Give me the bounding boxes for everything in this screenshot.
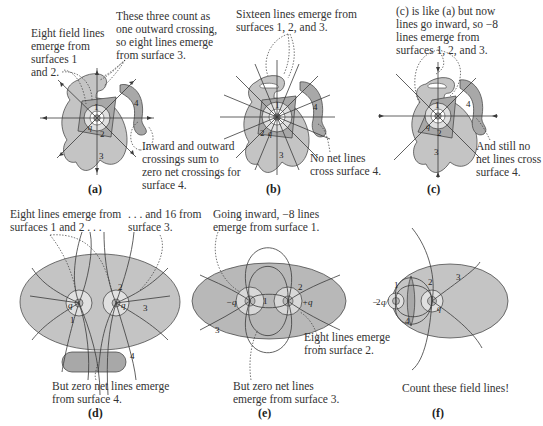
svg-text:1: 1 [275, 100, 280, 110]
panel-e-diagram: −q +q 1 2 3 [192, 232, 346, 380]
svg-text:3: 3 [143, 303, 148, 313]
svg-text:3: 3 [215, 325, 220, 335]
svg-text:−q: −q [226, 297, 237, 307]
svg-text:2: 2 [437, 128, 442, 138]
svg-text:2: 2 [376, 297, 381, 307]
svg-text:q: q [437, 304, 441, 313]
annotation-d-3: But zero net lines emerge from surface 4… [52, 380, 169, 406]
annotation-f-1: Count these field lines! [402, 382, 509, 395]
annotation-a-1: Eight field lines emerge from surfaces 1… [31, 27, 104, 79]
svg-text:1: 1 [94, 102, 99, 112]
svg-text:4: 4 [134, 98, 139, 108]
svg-text:3: 3 [279, 150, 284, 160]
panel-f-diagram: q/ − 2 1 2 3 4 q [372, 228, 508, 370]
svg-text:1: 1 [263, 296, 268, 306]
svg-text:q: q [426, 122, 430, 131]
svg-text:2: 2 [118, 282, 123, 292]
panel-d-diagram: q q 1 2 3 4 [20, 232, 180, 395]
svg-text:q: q [121, 300, 126, 310]
panel-label-a: (a) [88, 182, 102, 197]
svg-text:3: 3 [434, 147, 439, 157]
svg-text:2: 2 [100, 129, 105, 139]
svg-text:4: 4 [130, 351, 135, 361]
annotation-b-1: Sixteen lines emerge from surfaces 1, 2,… [236, 8, 357, 34]
annotation-a-3: Inward and outward crossings sum to zero… [142, 140, 241, 192]
svg-text:1: 1 [394, 280, 399, 290]
svg-text:2: 2 [298, 282, 303, 292]
svg-text:q: q [88, 123, 92, 132]
svg-text:4: 4 [405, 316, 410, 326]
svg-text:3: 3 [99, 151, 104, 161]
annotation-b-2: No net lines cross surface 4. [310, 152, 381, 178]
svg-text:4: 4 [466, 99, 471, 109]
panel-label-e: (e) [258, 406, 271, 421]
svg-text:2: 2 [260, 128, 265, 138]
svg-text:1: 1 [70, 315, 75, 325]
svg-text:+q: +q [302, 297, 313, 307]
svg-text:3: 3 [456, 272, 461, 282]
svg-text:1: 1 [435, 100, 440, 110]
annotation-e-3: But zero net lines emerge from surface 3… [233, 380, 339, 406]
surface-4-bar [62, 352, 126, 372]
annotation-a-2: These three count as one outward crossin… [116, 10, 217, 62]
annotation-c-1: (c) is like (a) but now lines go inward,… [396, 5, 498, 57]
panel-label-c: (c) [427, 182, 440, 197]
panel-label-f: (f) [432, 406, 444, 421]
panel-label-d: (d) [88, 406, 103, 421]
surface-3-ellipse [20, 254, 180, 350]
annotation-d-2: . . . and 16 from surface 3. [128, 208, 201, 234]
annotation-d-1: Eight lines emerge from surfaces 1 and 2… [10, 208, 121, 234]
svg-text:2: 2 [428, 277, 433, 287]
annotation-e-2: Eight lines emerge from surface 2. [304, 331, 390, 357]
svg-text:q: q [68, 300, 73, 310]
svg-text:4: 4 [313, 102, 318, 112]
annotation-c-2: And still no net lines cross surface 4. [476, 140, 541, 179]
panel-label-b: (b) [266, 182, 281, 197]
annotation-e-1: Going inward, −8 lines emerge from surfa… [213, 208, 319, 234]
svg-text:q: q [268, 129, 272, 138]
